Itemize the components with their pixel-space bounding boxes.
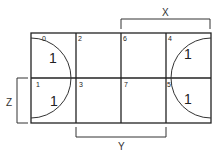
cell-index-4: 4 (168, 35, 172, 42)
cell-value-1: 1 (50, 93, 58, 109)
x-label: X (162, 7, 169, 18)
cell-index-2: 2 (78, 35, 82, 42)
cell-index-5: 5 (167, 81, 171, 88)
cell-value-4: 1 (184, 46, 192, 62)
cell-value-5: 1 (184, 91, 192, 107)
cell-index-0: 0 (42, 35, 46, 42)
y-label: Y (118, 141, 125, 152)
y-bracket (76, 127, 166, 137)
cell-index-1: 1 (36, 81, 40, 88)
x-bracket (121, 19, 210, 29)
cell-index-7: 7 (124, 81, 128, 88)
cell-index-6: 6 (123, 35, 127, 42)
karnaugh-map: X Y Z 0 2 6 4 1 3 7 5 1 1 1 1 (0, 0, 222, 153)
cell-value-0: 1 (49, 50, 57, 66)
cell-index-3: 3 (79, 81, 83, 88)
z-label: Z (6, 97, 12, 108)
z-bracket (17, 78, 28, 123)
